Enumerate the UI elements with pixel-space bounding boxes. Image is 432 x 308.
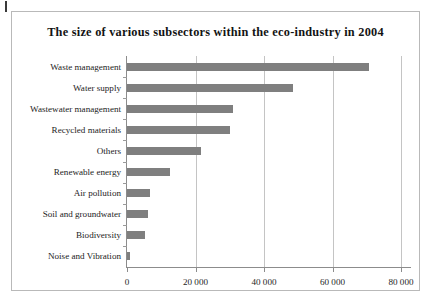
bar (127, 210, 148, 218)
plot-area: 020 00040 00060 00080 000 Waste manageme… (127, 56, 401, 267)
category-label: Water supply (73, 83, 121, 93)
x-axis-line (126, 267, 411, 268)
category-label: Wastewater management (30, 104, 121, 114)
x-axis-tick-label: 60 000 (320, 277, 345, 287)
x-axis-tick-label: 20 000 (183, 277, 208, 287)
page-edge-mark-icon (5, 1, 7, 12)
y-axis-tick (123, 162, 127, 163)
y-axis-tick (123, 204, 127, 205)
category-label: Recycled materials (52, 125, 121, 135)
y-axis-tick (123, 246, 127, 247)
category-label: Noise and Vibration (48, 251, 121, 261)
category-label: Air pollution (74, 188, 121, 198)
chart-title: The size of various subsectors within th… (12, 25, 419, 40)
bar (127, 147, 201, 155)
x-axis-tick (333, 267, 334, 272)
category-label: Biodiversity (76, 230, 121, 240)
chart-frame: The size of various subsectors within th… (11, 11, 420, 291)
bar (127, 63, 369, 71)
bar (127, 168, 170, 176)
bar (127, 231, 145, 239)
chart-page: The size of various subsectors within th… (0, 0, 432, 308)
x-axis-tick (127, 267, 128, 272)
x-axis-tick (196, 267, 197, 272)
category-label: Others (97, 146, 121, 156)
y-axis-tick (123, 98, 127, 99)
bar (127, 126, 230, 134)
bar (127, 105, 233, 113)
x-axis-tick (264, 267, 265, 272)
x-axis-tick (401, 267, 402, 272)
x-axis-tick-label: 80 000 (388, 277, 413, 287)
category-label: Renewable energy (54, 167, 121, 177)
y-axis-tick (123, 77, 127, 78)
y-axis-tick (123, 119, 127, 120)
gridline (401, 56, 402, 267)
x-axis-tick-label: 40 000 (251, 277, 276, 287)
bar (127, 189, 150, 197)
category-label: Waste management (50, 62, 121, 72)
bar (127, 84, 293, 92)
bar (127, 252, 130, 260)
category-label: Soil and groundwater (43, 209, 121, 219)
y-axis-tick (123, 225, 127, 226)
x-axis-tick-label: 0 (125, 277, 130, 287)
y-axis-tick (123, 183, 127, 184)
gridline (333, 56, 334, 267)
y-axis-tick (123, 140, 127, 141)
